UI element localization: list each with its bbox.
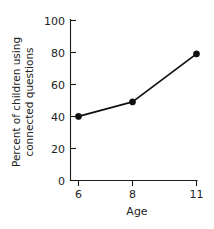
data-point-age-6 [75,113,81,119]
y-tick-label-100: 100 [44,15,65,28]
y-axis-ticks [71,21,77,181]
y-tick-label-40: 40 [51,111,65,124]
y-axis-tick-labels: 0 20 40 60 80 100 [44,15,65,188]
data-markers [75,51,199,120]
x-tick-label-8: 8 [129,188,136,201]
y-axis-title-line-2: connected questions [23,47,35,156]
y-tick-label-60: 60 [51,79,65,92]
x-axis-ticks [79,181,197,187]
x-axis-title: Age [126,205,148,218]
data-point-age-11 [193,51,199,57]
y-axis-title: Percent of children using connected ques… [10,37,35,167]
x-tick-label-6: 6 [75,188,82,201]
y-tick-label-80: 80 [51,47,65,60]
y-axis-title-line-1: Percent of children using [10,37,22,167]
chart-figure: 0 20 40 60 80 100 6 8 11 Age Percent of … [0,0,214,229]
x-tick-label-11: 11 [190,188,204,201]
data-series-line [79,54,197,117]
line-chart: 0 20 40 60 80 100 6 8 11 Age Percent of … [0,0,214,229]
data-point-age-8 [129,99,135,105]
y-tick-label-0: 0 [58,175,65,188]
y-tick-label-20: 20 [51,143,65,156]
x-axis-tick-labels: 6 8 11 [75,188,204,201]
